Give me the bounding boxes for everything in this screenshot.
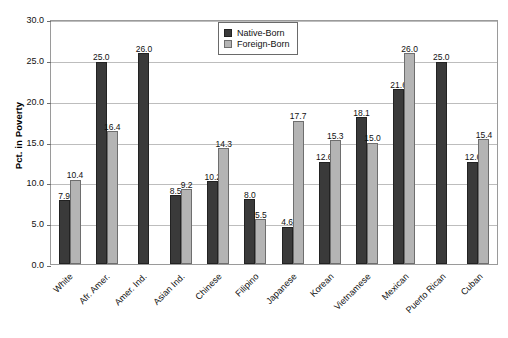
bar: 21.6 bbox=[393, 89, 404, 264]
poverty-bar-chart: Pct. in Poverty 0.05.010.015.020.025.030… bbox=[0, 0, 508, 338]
bar-groups: 7.910.425.016.426.08.59.210.214.38.05.54… bbox=[51, 21, 497, 264]
bar-value-label: 14.3 bbox=[215, 140, 232, 149]
y-tick-label: 15.0 bbox=[16, 138, 44, 148]
y-tick-label: 30.0 bbox=[16, 15, 44, 25]
bar-value-label: 15.3 bbox=[327, 132, 344, 141]
bar: 9.2 bbox=[181, 189, 192, 264]
bar-group: 12.615.4 bbox=[460, 21, 497, 264]
x-tick-label: Japanese bbox=[274, 265, 311, 325]
chart-legend: Native-Born Foreign-Born bbox=[218, 22, 298, 55]
bar-group: 12.615.3 bbox=[311, 21, 348, 264]
x-tick-label: Cuban bbox=[461, 265, 498, 325]
bar: 7.9 bbox=[59, 200, 70, 264]
bar-group: 4.617.7 bbox=[274, 21, 311, 264]
bar: 26.0 bbox=[404, 53, 415, 264]
y-tick-label: 20.0 bbox=[16, 97, 44, 107]
bar: 10.2 bbox=[207, 181, 218, 264]
bar-value-label: 25.0 bbox=[93, 53, 110, 62]
bar: 15.4 bbox=[478, 139, 489, 264]
y-tick-label: 5.0 bbox=[16, 219, 44, 229]
bar: 26.0 bbox=[138, 53, 149, 264]
x-tick-label: Puerto Rican bbox=[423, 265, 460, 325]
bar: 12.6 bbox=[319, 162, 330, 264]
y-axis-tick-labels: 0.05.010.015.020.025.030.0 bbox=[14, 0, 44, 338]
legend-swatch-native-born-icon bbox=[224, 29, 232, 37]
bar-value-label: 25.0 bbox=[433, 53, 450, 62]
bar: 15.0 bbox=[367, 143, 378, 265]
bar: 16.4 bbox=[107, 131, 118, 264]
bar-value-label: 8.0 bbox=[244, 191, 256, 200]
bar-value-label: 5.5 bbox=[255, 211, 267, 220]
bar-value-label: 16.4 bbox=[104, 123, 121, 132]
bar: 8.0 bbox=[244, 199, 255, 264]
legend-label-foreign-born: Foreign-Born bbox=[237, 39, 290, 49]
bar-group: 8.59.2 bbox=[163, 21, 200, 264]
bar-group: 26.0 bbox=[125, 21, 162, 264]
bar: 25.0 bbox=[436, 62, 447, 265]
bar: 4.6 bbox=[282, 227, 293, 264]
x-axis-tick-labels: WhiteAfr. Amer.Amer. Ind.Asian Ind.Chine… bbox=[50, 265, 498, 325]
bar-value-label: 26.0 bbox=[401, 45, 418, 54]
bar-value-label: 17.7 bbox=[290, 112, 307, 121]
bar-value-label: 4.6 bbox=[281, 218, 293, 227]
legend-item-native-born: Native-Born bbox=[224, 28, 290, 38]
bar: 8.5 bbox=[170, 195, 181, 264]
bar: 17.7 bbox=[293, 121, 304, 264]
bar-group: 8.05.5 bbox=[237, 21, 274, 264]
bar-group: 21.626.0 bbox=[386, 21, 423, 264]
bar-value-label: 26.0 bbox=[136, 45, 153, 54]
x-tick-label: Chinese bbox=[199, 265, 236, 325]
y-tick-label: 0.0 bbox=[16, 260, 44, 270]
legend-label-native-born: Native-Born bbox=[237, 28, 285, 38]
legend-swatch-foreign-born-icon bbox=[224, 40, 232, 48]
y-tick-label: 25.0 bbox=[16, 56, 44, 66]
plot-area: 7.910.425.016.426.08.59.210.214.38.05.54… bbox=[50, 20, 498, 265]
bar-value-label: 15.0 bbox=[364, 134, 381, 143]
bar-value-label: 18.1 bbox=[353, 109, 370, 118]
bar-value-label: 9.2 bbox=[181, 181, 193, 190]
bar: 12.6 bbox=[467, 162, 478, 264]
bar-group: 7.910.4 bbox=[51, 21, 88, 264]
legend-item-foreign-born: Foreign-Born bbox=[224, 39, 290, 49]
bar: 15.3 bbox=[330, 140, 341, 264]
bar-group: 25.0 bbox=[423, 21, 460, 264]
y-tick-label: 10.0 bbox=[16, 178, 44, 188]
bar: 14.3 bbox=[218, 148, 229, 264]
bar: 10.4 bbox=[70, 180, 81, 264]
bar-group: 18.115.0 bbox=[348, 21, 385, 264]
bar-value-label: 15.4 bbox=[476, 131, 493, 140]
bar: 5.5 bbox=[255, 219, 266, 264]
bar-value-label: 10.4 bbox=[67, 171, 84, 180]
bar-value-label: 7.9 bbox=[58, 192, 70, 201]
bar: 25.0 bbox=[96, 62, 107, 265]
bar-group: 25.016.4 bbox=[88, 21, 125, 264]
bar-group: 10.214.3 bbox=[200, 21, 237, 264]
